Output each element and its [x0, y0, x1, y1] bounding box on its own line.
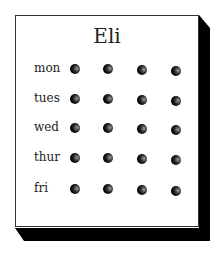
peg-wed-3[interactable]	[137, 124, 147, 134]
row-label-wed: wed	[34, 120, 74, 134]
board-title: Eli	[16, 24, 198, 48]
peg-tues-3[interactable]	[137, 95, 147, 105]
peg-mon-3[interactable]	[137, 65, 147, 75]
peg-thur-2[interactable]	[103, 153, 113, 163]
peg-wed-4[interactable]	[171, 125, 181, 135]
board-face: Eli mon tues wed thur fri	[15, 15, 199, 227]
peg-board: Eli mon tues wed thur fri	[0, 0, 217, 259]
peg-fri-3[interactable]	[137, 185, 147, 195]
peg-fri-1[interactable]	[70, 184, 80, 194]
peg-mon-4[interactable]	[171, 66, 181, 76]
peg-wed-1[interactable]	[70, 123, 80, 133]
peg-mon-1[interactable]	[70, 64, 80, 74]
row-label-thur: thur	[34, 150, 74, 164]
peg-fri-4[interactable]	[171, 186, 181, 196]
peg-thur-3[interactable]	[137, 154, 147, 164]
peg-fri-2[interactable]	[103, 184, 113, 194]
peg-thur-1[interactable]	[70, 153, 80, 163]
peg-tues-2[interactable]	[103, 94, 113, 104]
row-label-mon: mon	[34, 61, 74, 75]
row-label-tues: tues	[34, 91, 74, 105]
peg-tues-1[interactable]	[70, 94, 80, 104]
peg-wed-2[interactable]	[103, 123, 113, 133]
peg-mon-2[interactable]	[103, 64, 113, 74]
peg-thur-4[interactable]	[171, 155, 181, 165]
row-label-fri: fri	[34, 181, 74, 195]
peg-tues-4[interactable]	[171, 96, 181, 106]
